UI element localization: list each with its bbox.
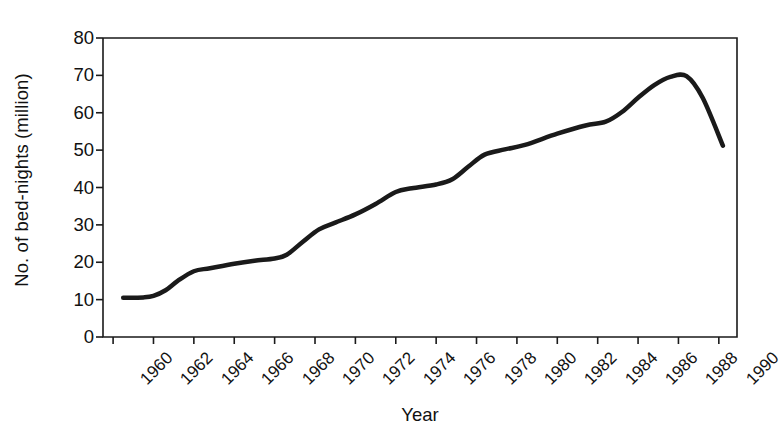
x-tick-label: 1982 bbox=[581, 349, 620, 388]
x-tick-label: 1986 bbox=[662, 349, 701, 388]
x-tick-label: 1962 bbox=[178, 349, 217, 388]
x-tick-label: 1968 bbox=[299, 349, 338, 388]
x-tick-label: 1990 bbox=[743, 349, 782, 388]
x-tick-label: 1964 bbox=[218, 349, 257, 388]
x-tick-label: 1980 bbox=[541, 349, 580, 388]
x-tick-label: 1972 bbox=[379, 349, 418, 388]
x-tick-label: 1976 bbox=[460, 349, 499, 388]
x-tick-label: 1988 bbox=[703, 349, 742, 388]
x-tick-label: 1974 bbox=[420, 349, 459, 388]
x-tick-label: 1960 bbox=[137, 349, 176, 388]
x-tick-label: 1966 bbox=[258, 349, 297, 388]
x-tick-label: 1984 bbox=[622, 349, 661, 388]
x-axis-title: Year bbox=[103, 404, 737, 426]
x-tick-label: 1970 bbox=[339, 349, 378, 388]
x-tick-label: 1978 bbox=[501, 349, 540, 388]
